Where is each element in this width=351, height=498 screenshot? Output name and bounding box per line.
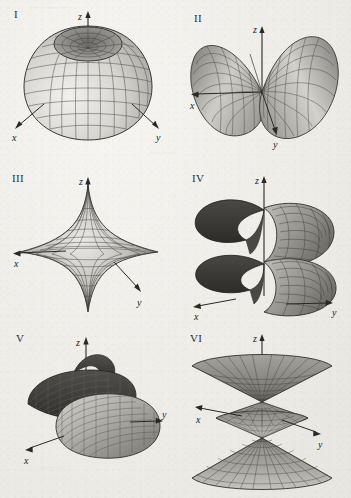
ramp-link-upper-IV <box>246 210 264 254</box>
ramp-lower-front-IV <box>264 259 336 316</box>
axis-y-III: y <box>114 262 142 308</box>
panel-III: III z <box>0 166 176 326</box>
surface-plot-V: z <box>0 326 176 498</box>
axis-label-y-III: y <box>136 297 142 308</box>
surface-plot-III: z <box>0 166 176 326</box>
panel-II: II <box>176 0 351 166</box>
panel-grid: I <box>0 0 351 498</box>
panel-label-II: II <box>194 12 202 24</box>
panel-label-I: I <box>14 8 18 20</box>
panel-VI: VI <box>176 326 351 498</box>
axis-label-x-VI: x <box>195 414 201 425</box>
axis-x-V: x <box>23 436 64 466</box>
panel-label-VI: VI <box>190 332 202 344</box>
axis-label-y-II: y <box>272 139 278 150</box>
axis-label-x-III: x <box>13 258 19 269</box>
axis-label-y-V: y <box>161 409 167 420</box>
panel-label-III: III <box>12 172 24 184</box>
ramp-middle-back-IV <box>196 255 264 293</box>
axis-label-z-VI: z <box>252 333 257 344</box>
panel-I: I <box>0 0 176 166</box>
panel-IV: IV <box>176 166 351 326</box>
axis-label-x-I: x <box>11 132 17 143</box>
surface-plot-VI: z <box>176 326 351 498</box>
cone-upper-VI <box>192 355 332 402</box>
axis-label-y-VI: y <box>317 439 323 450</box>
cone-lower-VI <box>192 438 332 489</box>
panel-label-V: V <box>16 332 24 344</box>
panel-label-IV: IV <box>192 172 204 184</box>
lobe-left-II <box>191 45 264 135</box>
axis-label-y-I: y <box>155 132 161 143</box>
surface-plot-I: x y z <box>0 0 176 166</box>
axis-label-z-V: z <box>75 337 80 348</box>
surface-plot-IV: z <box>176 166 351 326</box>
panel-V: V <box>0 326 176 498</box>
ramp-link-lower-IV <box>250 264 264 304</box>
axis-label-x-II: x <box>189 100 195 111</box>
axis-label-x-IV: x <box>193 311 199 322</box>
figure-page: •••••• •••• ••••• •••• •••••• ••••• ••••… <box>0 0 351 498</box>
axis-label-y-IV: y <box>331 307 337 318</box>
axis-label-x-V: x <box>23 455 29 466</box>
axis-label-z-II: z <box>252 24 257 35</box>
axis-x-IV: x <box>193 299 236 322</box>
dimple-I <box>54 27 122 61</box>
surface-plot-II: z <box>176 0 351 166</box>
axis-label-z-IV: z <box>254 175 259 186</box>
axis-label-z-I: z <box>77 11 82 22</box>
axis-label-z-III: z <box>78 176 83 187</box>
